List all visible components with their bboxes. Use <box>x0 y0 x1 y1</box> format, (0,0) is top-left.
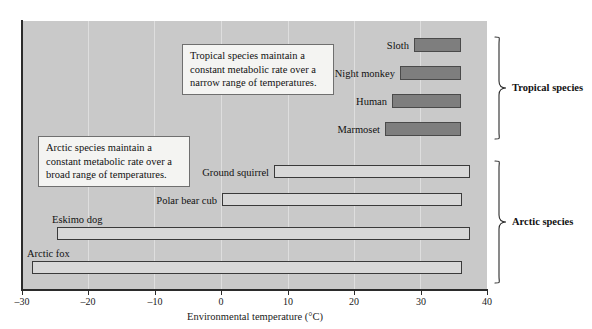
x-axis-line <box>21 289 488 291</box>
callout-tropical-species: Tropical species maintain a constant met… <box>182 44 334 95</box>
bracket-arctic <box>492 160 508 284</box>
callout-tropical-line2: constant metabolic rate over a <box>190 63 327 77</box>
tick-mark-minus30 <box>22 291 23 295</box>
tick-mark-20 <box>354 291 355 295</box>
callout-arctic-line1: Arctic species maintain a <box>46 141 183 155</box>
bar-label-eskimo-dog: Eskimo dog <box>52 214 147 226</box>
callout-tropical-line1: Tropical species maintain a <box>190 49 327 63</box>
bracket-arctic-icon <box>492 160 508 284</box>
bar-eskimo-dog <box>57 227 470 240</box>
bar-label-marmoset: Marmoset <box>285 124 380 136</box>
bracket-tropical-icon <box>492 36 508 140</box>
callout-arctic-line2: constant metabolic rate over a <box>46 155 183 169</box>
tick-label-40: 40 <box>467 296 507 308</box>
tick-mark-minus10 <box>155 291 156 295</box>
bar-ground-squirrel <box>274 165 470 178</box>
tick-mark-10 <box>288 291 289 295</box>
tick-label-minus10: –10 <box>135 296 175 308</box>
tick-mark-40 <box>487 291 488 295</box>
tick-mark-zero <box>221 291 222 295</box>
callout-arctic-line3: broad range of temperatures. <box>46 168 183 182</box>
tick-label-zero: 0 <box>201 296 241 308</box>
gridline-20 <box>354 21 355 289</box>
bar-human <box>392 94 461 108</box>
tick-mark-minus20 <box>88 291 89 295</box>
bar-night-monkey <box>400 66 461 80</box>
tick-label-10: 10 <box>268 296 308 308</box>
bar-marmoset <box>385 122 461 136</box>
bar-label-polar-bear-cub: Polar bear cub <box>122 195 217 207</box>
bar-sloth <box>414 38 461 52</box>
tick-label-20: 20 <box>334 296 374 308</box>
x-axis-title: Environmental temperature (°C) <box>0 311 510 322</box>
metabolic-rate-range-chart: Sloth Night monkey Human Marmoset Ground… <box>0 0 592 329</box>
bar-label-human: Human <box>292 96 387 108</box>
callout-arctic-species: Arctic species maintain a constant metab… <box>38 136 190 187</box>
tick-label-minus30: –30 <box>2 296 42 308</box>
bar-polar-bear-cub <box>222 193 462 206</box>
group-label-arctic-species: Arctic species <box>512 216 573 227</box>
group-label-tropical-species: Tropical species <box>512 82 583 93</box>
bar-arctic-fox <box>32 261 462 274</box>
callout-tropical-line3: narrow range of temperatures. <box>190 76 327 90</box>
tick-label-minus20: –20 <box>68 296 108 308</box>
bracket-tropical <box>492 36 508 140</box>
bar-label-arctic-fox: Arctic fox <box>27 248 122 260</box>
gridline-30 <box>420 21 421 289</box>
tick-mark-30 <box>421 291 422 295</box>
tick-label-30: 30 <box>401 296 441 308</box>
y-axis-line <box>21 20 23 291</box>
